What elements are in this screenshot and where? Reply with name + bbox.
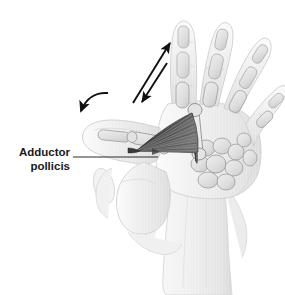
thumb-rotation-arrow bbox=[81, 93, 108, 111]
hand-illustration-canvas: Adductor pollicis bbox=[0, 0, 285, 295]
little-finger bbox=[246, 86, 285, 147]
label-line-1: Adductor bbox=[19, 146, 71, 158]
adduction-arrow-up bbox=[133, 43, 170, 103]
label-line-2: pollicis bbox=[30, 160, 70, 172]
annotation-arrows bbox=[81, 43, 170, 111]
anatomical-figure-adductor-pollicis: Adductor pollicis bbox=[0, 0, 285, 295]
middle-finger bbox=[200, 23, 233, 108]
index-finger bbox=[171, 21, 197, 108]
